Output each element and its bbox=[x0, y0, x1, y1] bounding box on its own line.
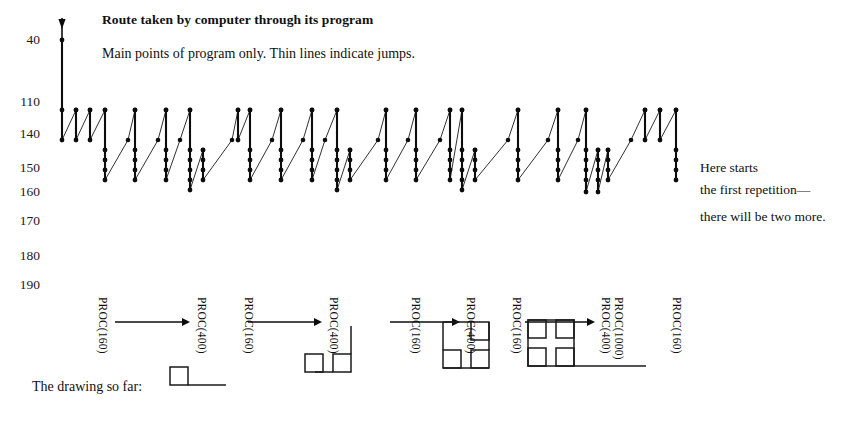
node-dot-55-4 bbox=[584, 178, 589, 183]
jump-line-53 bbox=[558, 140, 578, 180]
flow-arrow-head-0 bbox=[182, 318, 190, 326]
node-dot-9-2 bbox=[133, 158, 138, 163]
jump-line-24 bbox=[272, 110, 281, 140]
trace-group bbox=[58, 18, 678, 194]
drawing-4-square-bl bbox=[528, 348, 546, 366]
jump-line-11 bbox=[158, 110, 166, 140]
figure-canvas: 40110140150160170180190 Route taken by c… bbox=[0, 0, 858, 422]
side-note-line-1: Here starts bbox=[700, 160, 758, 176]
jump-line-61 bbox=[631, 110, 645, 140]
jump-line-38 bbox=[408, 110, 416, 140]
drawing-2-square-left bbox=[305, 354, 323, 372]
node-dot-59-2 bbox=[606, 168, 611, 173]
drawing-1-square bbox=[170, 367, 188, 385]
page-title: Route taken by computer through its prog… bbox=[102, 12, 373, 28]
y-tick-label-180: 180 bbox=[4, 248, 40, 264]
flow-arrow-group bbox=[115, 318, 595, 326]
node-dot-12-1 bbox=[164, 148, 169, 153]
proc-label-1: PROC(400) bbox=[196, 297, 208, 354]
jump-line-37 bbox=[386, 140, 408, 180]
y-tick-label-170: 170 bbox=[4, 213, 40, 229]
flow-arrow-head-3 bbox=[587, 318, 595, 326]
node-dot-2-0 bbox=[74, 108, 79, 113]
flow-arrow-head-1 bbox=[314, 318, 322, 326]
node-dot-59-0 bbox=[606, 148, 611, 153]
node-dot-4-0 bbox=[88, 108, 93, 113]
jump-line-35 bbox=[378, 110, 386, 140]
node-dot-0-1 bbox=[60, 108, 65, 113]
node-dot-49-2 bbox=[516, 158, 521, 163]
y-tick-label-160: 160 bbox=[4, 184, 40, 200]
node-dot-42-2 bbox=[448, 158, 453, 163]
node-dot-46-0 bbox=[473, 148, 478, 153]
node-dot-36-3 bbox=[384, 168, 389, 173]
jump-line-3 bbox=[76, 110, 90, 140]
proc-label-0: PROC(160) bbox=[97, 297, 109, 354]
node-dot-44-2 bbox=[460, 158, 465, 163]
jump-line-48 bbox=[508, 110, 518, 140]
node-dot-12-2 bbox=[164, 158, 169, 163]
node-dot-17-1 bbox=[201, 158, 206, 163]
node-dot-28-0 bbox=[310, 108, 315, 113]
node-dot-52-0 bbox=[556, 108, 561, 113]
node-dot-31-3 bbox=[335, 168, 340, 173]
jump-line-1 bbox=[62, 110, 76, 140]
node-dot-6-1 bbox=[103, 148, 108, 153]
node-dot-33-1 bbox=[348, 158, 353, 163]
node-dot-12-3 bbox=[164, 168, 169, 173]
proc-label-2: PROC(160) bbox=[243, 297, 255, 354]
node-dot-15-3 bbox=[188, 168, 193, 173]
node-dot-57-0 bbox=[596, 148, 601, 153]
node-dot-44-1 bbox=[460, 148, 465, 153]
node-dot-9-1 bbox=[133, 148, 138, 153]
jump-line-21 bbox=[238, 110, 250, 140]
node-dot-33-0 bbox=[348, 148, 353, 153]
node-dot-52-2 bbox=[556, 158, 561, 163]
node-dot-66-4 bbox=[674, 178, 679, 183]
jump-line-34 bbox=[350, 140, 378, 180]
node-dot-31-1 bbox=[335, 148, 340, 153]
node-dot-28-2 bbox=[310, 158, 315, 163]
node-dot-42-1 bbox=[448, 148, 453, 153]
proc-label-9: PROC(160) bbox=[671, 297, 683, 354]
node-dot-49-0 bbox=[516, 108, 521, 113]
y-tick-label-110: 110 bbox=[4, 94, 40, 110]
side-note-line-2: the first repetition— bbox=[700, 182, 810, 198]
node-dot-44-0 bbox=[460, 108, 465, 113]
node-dot-55-3 bbox=[584, 168, 589, 173]
jump-line-41 bbox=[440, 110, 450, 140]
proc-label-8: PROC(1000) bbox=[613, 297, 625, 360]
node-dot-55-2 bbox=[584, 158, 589, 163]
drawing-so-far-group bbox=[170, 320, 646, 385]
node-dot-22-3 bbox=[248, 168, 253, 173]
jump-line-54 bbox=[578, 110, 586, 140]
node-dot-52-3 bbox=[556, 168, 561, 173]
node-dot-15-2 bbox=[188, 158, 193, 163]
node-dot-25-1 bbox=[279, 148, 284, 153]
node-dot-42-0 bbox=[448, 108, 453, 113]
node-dot-20-0 bbox=[236, 108, 241, 113]
side-note-line-3: there will be two more. bbox=[700, 209, 826, 225]
y-tick-label-40: 40 bbox=[4, 32, 40, 48]
page-subtitle: Main points of program only. Thin lines … bbox=[102, 46, 415, 62]
jump-line-60 bbox=[608, 140, 631, 180]
node-dot-39-1 bbox=[414, 148, 419, 153]
node-dot-57-3 bbox=[596, 178, 601, 183]
node-dot-39-2 bbox=[414, 158, 419, 163]
jump-line-5 bbox=[90, 110, 105, 140]
jump-line-10 bbox=[135, 140, 158, 180]
jump-line-65 bbox=[660, 110, 676, 140]
node-dot-25-0 bbox=[279, 108, 284, 113]
entry-arrow-head bbox=[58, 19, 65, 29]
jump-line-30 bbox=[325, 110, 337, 140]
jump-line-47 bbox=[475, 140, 508, 180]
node-dot-36-0 bbox=[384, 108, 389, 113]
jump-line-7 bbox=[105, 140, 128, 180]
jump-line-50 bbox=[518, 140, 548, 180]
drawing-4-outline bbox=[528, 320, 574, 366]
node-dot-46-2 bbox=[473, 168, 478, 173]
node-dot-0-0 bbox=[60, 38, 65, 43]
proc-label-4: PROC(160) bbox=[410, 297, 422, 354]
drawing-so-far-label: The drawing so far: bbox=[32, 379, 142, 395]
node-dot-66-1 bbox=[674, 148, 679, 153]
